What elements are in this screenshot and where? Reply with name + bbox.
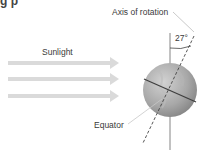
sunlight-arrows bbox=[8, 57, 119, 102]
earth-tilt-diagram bbox=[0, 0, 207, 155]
axis-of-rotation-label: Axis of rotation bbox=[112, 8, 168, 17]
axis-label-leader bbox=[173, 12, 194, 32]
tilt-angle-arc bbox=[170, 46, 191, 49]
tilt-angle-label: 27° bbox=[175, 34, 188, 43]
sunlight-arrow-3 bbox=[8, 90, 119, 102]
equator-label: Equator bbox=[94, 121, 124, 130]
sunlight-arrow-2 bbox=[8, 73, 119, 85]
sunlight-label: Sunlight bbox=[42, 48, 73, 57]
sunlight-arrow-1 bbox=[8, 57, 119, 69]
